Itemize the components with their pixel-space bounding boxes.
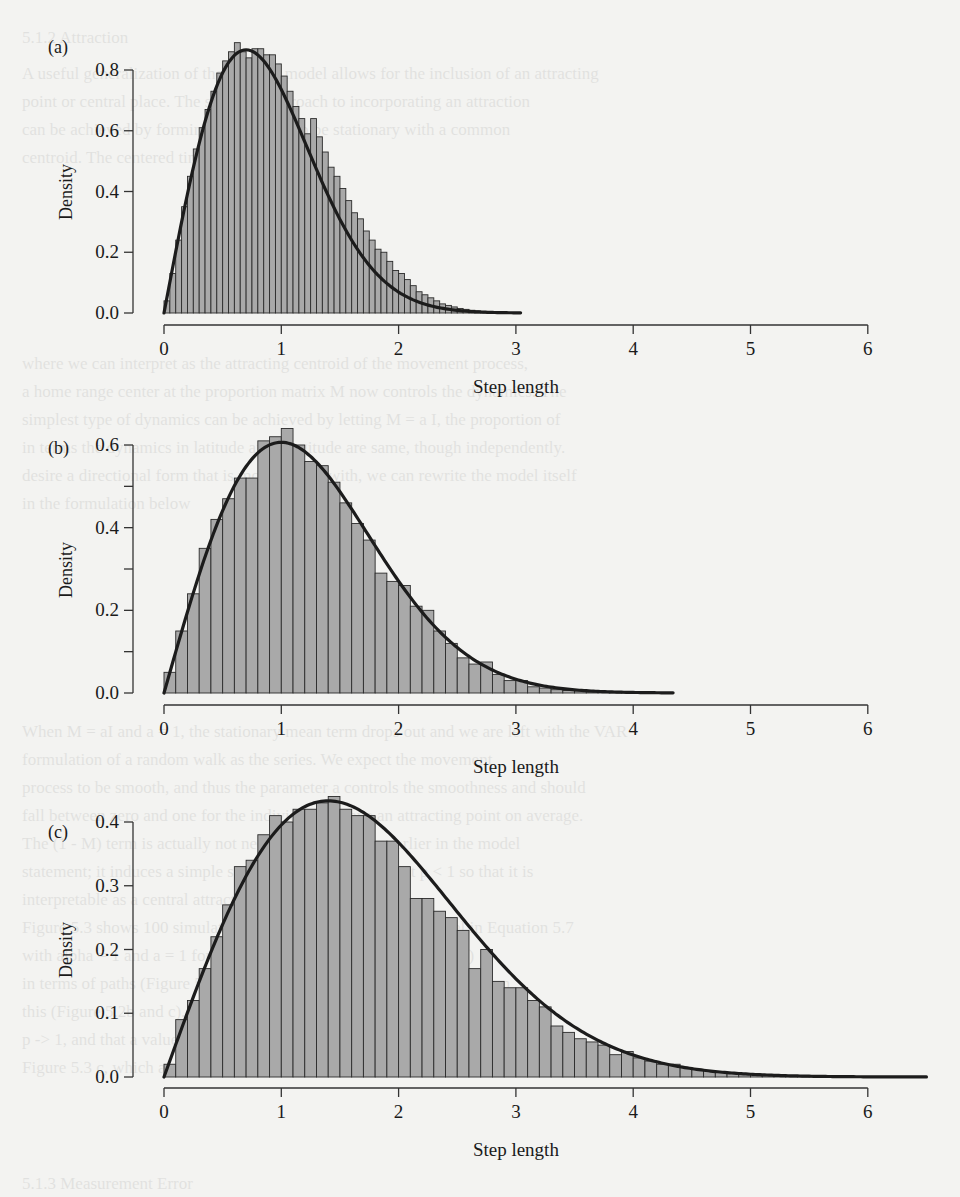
y-tick-label: 0.4 [95, 181, 119, 202]
histogram-bar [281, 822, 293, 1077]
histogram-bar [223, 499, 235, 693]
histogram-bar [258, 49, 264, 313]
panel-c: 0.00.10.20.30.4Density0123456Step length… [48, 797, 926, 1161]
y-tick-label: 0.1 [95, 1002, 119, 1023]
histogram-bar [363, 816, 375, 1077]
x-tick-label: 0 [159, 338, 169, 359]
histogram-bar [469, 969, 481, 1077]
histogram-bar [270, 55, 276, 313]
histogram-bar [387, 841, 399, 1077]
x-axis-label: Step length [473, 1139, 560, 1160]
histogram-bars [164, 428, 633, 693]
histogram-bar [205, 109, 211, 313]
panel-label: (b) [48, 438, 69, 459]
histogram-bar [446, 918, 458, 1077]
panel-label: (c) [48, 822, 68, 843]
x-tick-label: 0 [159, 718, 169, 739]
x-tick-label: 5 [746, 1101, 756, 1122]
y-tick-label: 0.6 [95, 120, 119, 141]
histogram-bar [369, 240, 375, 313]
histogram-bar [252, 49, 258, 313]
histogram-bar [539, 1007, 551, 1077]
histogram-bar [340, 188, 346, 313]
x-tick-label: 2 [394, 338, 404, 359]
histogram-bar [410, 899, 422, 1078]
histogram-bar [293, 809, 305, 1077]
histogram-bar [328, 482, 340, 693]
histogram-bar [316, 466, 328, 693]
x-tick-label: 6 [863, 718, 873, 739]
y-tick-label: 0.2 [95, 939, 119, 960]
x-axis-label: Step length [473, 756, 560, 777]
x-tick-label: 1 [277, 1101, 287, 1122]
x-axis: 0123456Step length [159, 705, 872, 777]
histogram-bar [481, 950, 493, 1078]
histogram-bar [457, 658, 469, 693]
histogram-bar [328, 797, 340, 1078]
y-axis-label: Density [56, 164, 76, 220]
histogram-bar [240, 52, 246, 313]
histogram-bar [528, 1001, 540, 1078]
histogram-bar [305, 134, 311, 313]
histogram-bar [598, 1045, 610, 1077]
histogram-bar [246, 58, 252, 313]
y-axis-label: Density [56, 922, 76, 978]
histogram-bars [164, 797, 821, 1078]
histogram-bar [399, 867, 411, 1077]
x-axis: 0123456Step length [159, 1088, 872, 1160]
histogram-bar [246, 478, 258, 693]
histogram-bar [551, 690, 563, 693]
y-tick-label: 0.3 [95, 875, 119, 896]
histogram-bar [610, 1055, 622, 1077]
y-tick-label: 0.0 [95, 1066, 119, 1087]
histogram-bar [199, 128, 205, 313]
y-tick-label: 0.6 [95, 434, 119, 455]
x-tick-label: 4 [628, 718, 638, 739]
histogram-bar [375, 841, 387, 1077]
histogram-bar [293, 445, 305, 693]
histogram-bar [410, 606, 422, 693]
histogram-bar [229, 52, 235, 313]
histogram-bar [575, 1039, 587, 1077]
histogram-bar [340, 809, 352, 1077]
y-axis: 0.00.20.40.60.8Density [56, 59, 133, 323]
histogram-bar [516, 988, 528, 1077]
histogram-bar [358, 219, 364, 313]
histogram-bar [246, 860, 258, 1077]
histogram-bar [387, 581, 399, 693]
y-tick-label: 0.2 [95, 241, 119, 262]
histogram-bar [633, 1058, 645, 1077]
panel-label: (a) [48, 37, 68, 58]
x-tick-label: 3 [511, 338, 521, 359]
histogram-bar [457, 930, 469, 1077]
histogram-bar [657, 1064, 669, 1077]
histogram-bar [352, 213, 358, 313]
histogram-bar [270, 816, 282, 1077]
y-tick-label: 0.0 [95, 682, 119, 703]
histogram-bar [193, 149, 199, 313]
histogram-bar [399, 586, 411, 693]
x-tick-label: 0 [159, 1101, 169, 1122]
histogram-bar [211, 91, 217, 313]
histogram-bar [446, 643, 458, 693]
histogram-bar [281, 76, 287, 313]
y-axis-label: Density [56, 542, 76, 598]
histogram-bar [340, 503, 352, 693]
x-tick-label: 6 [863, 338, 873, 359]
histogram-bar [334, 176, 340, 313]
y-tick-label: 0.4 [95, 811, 119, 832]
histogram-bar [539, 688, 551, 693]
histogram-bar [305, 809, 317, 1077]
x-tick-label: 4 [628, 338, 638, 359]
panel-a: 0.00.20.40.60.8Density0123456Step length… [48, 37, 873, 397]
histogram-bar [328, 167, 334, 313]
histogram-bar [469, 664, 481, 693]
x-tick-label: 3 [511, 1101, 521, 1122]
histogram-bar [375, 249, 381, 313]
x-tick-label: 1 [277, 338, 287, 359]
histogram-bar [258, 441, 270, 693]
histogram-bar [375, 573, 387, 693]
histogram-bar [270, 437, 282, 693]
x-axis-label: Step length [473, 376, 560, 397]
histogram-bar [492, 674, 504, 693]
